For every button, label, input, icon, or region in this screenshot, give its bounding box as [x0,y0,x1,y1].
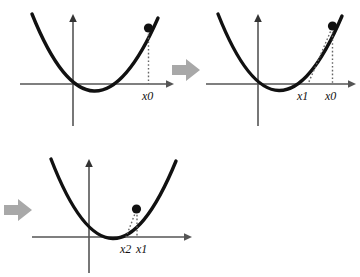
dotted-tangent-line [308,28,332,84]
panel-1-plot: x0 [8,6,176,134]
right-arrow-shape [172,59,200,81]
y-axis-arrowhead-icon [85,159,93,167]
parabola-curve [218,14,342,91]
x-axis-arrowhead-icon [184,233,192,241]
panel-3-plot: x2 x1 [30,147,198,275]
point-marker-x1 [132,204,141,213]
parabola-curve [51,159,176,239]
figure-canvas: x0 x1 x0 [0,0,360,277]
label-x1: x1 [135,242,147,256]
right-arrow-shape [4,199,32,221]
label-x0: x0 [324,89,336,103]
panel-3-second-iteration: x2 x1 [30,147,198,275]
point-marker-x0 [144,23,153,32]
parabola-curve [32,14,158,91]
cropped-caption-text [4,0,144,3]
label-x0: x0 [141,89,153,103]
point-marker-x0 [328,21,337,30]
label-x1: x1 [296,89,308,103]
y-axis-arrowhead-icon [254,14,262,22]
panel-1-initial-guess: x0 [8,6,176,134]
y-axis-arrowhead-icon [69,14,77,22]
x-axis-arrowhead-icon [348,80,356,88]
panel-2-plot: x1 x0 [198,6,358,134]
label-x2: x2 [119,242,131,256]
panel-2-first-iteration: x1 x0 [198,6,358,134]
